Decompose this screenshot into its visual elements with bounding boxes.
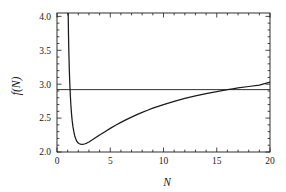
y-tick-label: 2.5 (39, 113, 51, 123)
y-tick-label: 2.0 (39, 147, 51, 157)
x-tick-label: 0 (55, 156, 60, 166)
y-axis-title: f(N) (10, 77, 23, 96)
x-tick-label: 15 (212, 156, 222, 166)
x-axis-title: N (162, 176, 172, 188)
x-tick-label: 5 (108, 156, 113, 166)
plot-background (57, 13, 270, 152)
figure-container: 2.02.53.03.54.005101520 f(N) N (0, 0, 286, 192)
y-tick-label: 3.0 (39, 80, 51, 90)
chart-plot: 2.02.53.03.54.005101520 f(N) N (0, 0, 286, 192)
y-tick-label: 4.0 (39, 12, 51, 22)
x-tick-label: 10 (159, 156, 169, 166)
x-tick-label: 20 (265, 156, 275, 166)
y-tick-label: 3.5 (39, 46, 51, 56)
